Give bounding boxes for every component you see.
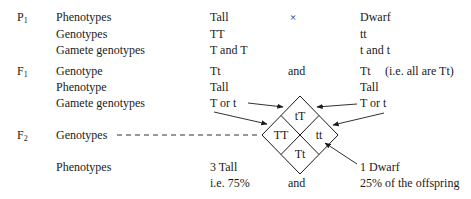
arrow-dwarf (325, 143, 357, 164)
punnett-cell-right: tt (304, 128, 334, 142)
arrow-right-gamete-1 (317, 104, 357, 107)
punnett-diagram (0, 0, 471, 199)
punnett-cell-bottom: Tt (285, 147, 315, 161)
arrow-right-gamete-2 (333, 113, 384, 125)
punnett-cell-left: TT (266, 128, 296, 142)
arrow-left-gamete-1 (248, 103, 283, 107)
arrow-left-gamete-2 (214, 112, 267, 124)
punnett-cell-top: tT (285, 109, 315, 123)
